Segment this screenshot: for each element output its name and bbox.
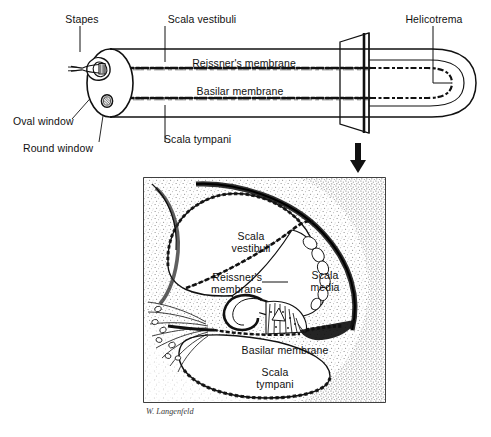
label-scala-vestibuli-section-1: Scala [238,230,265,242]
basilar-membrane-loop [370,83,452,98]
label-helicotrema: Helicotrema [405,13,462,25]
label-scala-media-1: Scala [312,269,339,281]
label-scala-tympani-section-1: Scala [262,366,289,378]
label-scala-tympani-top: Scala tympani [164,133,231,145]
label-reissners-membrane-top: Reissner's membrane [192,57,296,69]
label-oval-window: Oval window [13,115,74,127]
figure-canvas: Stapes Scala vestibuli Helicotrema Reiss… [0,0,491,437]
section-down-arrow [350,143,366,173]
round-window-opening [101,95,112,107]
label-stapes: Stapes [65,13,98,25]
label-basilar-membrane-top: Basilar membrane [197,85,284,97]
artist-signature: W. Langenfeld [146,406,194,416]
reissners-membrane-loop [370,68,452,83]
label-basilar-membrane-section: Basilar membrane [242,344,329,356]
helicotrema-outer-loop [369,49,476,117]
label-reissners-section-2: membrane [211,283,262,295]
cutting-plane-indicator [340,33,369,133]
label-scala-tympani-section-2: tympani [256,378,293,390]
label-reissners-section-1: Reissner's [212,271,262,283]
label-scala-media-2: media [310,281,339,293]
label-round-window: Round window [23,142,93,154]
uncoiled-cochlea-drawing [68,26,476,173]
label-scala-vestibuli-top: Scala vestibuli [168,13,237,25]
label-scala-vestibuli-section-2: vestibuli [232,242,271,254]
